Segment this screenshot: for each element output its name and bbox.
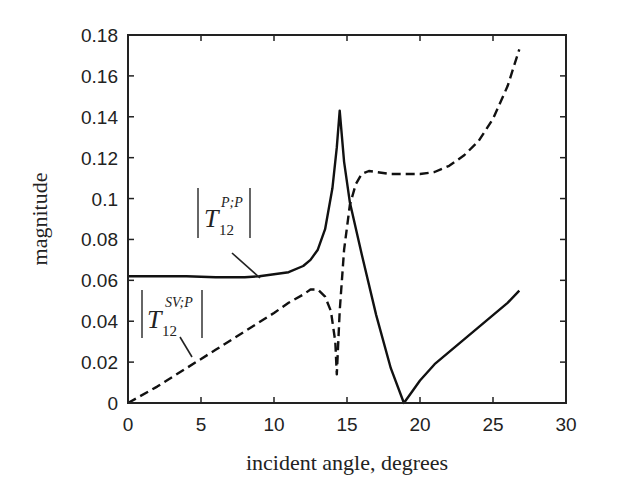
x-tick-label: 10 — [263, 414, 284, 435]
x-tick-label: 15 — [336, 414, 357, 435]
y-tick-label: 0.1 — [92, 189, 118, 210]
y-tick-label: 0.08 — [81, 229, 118, 250]
svg-text:12: 12 — [219, 222, 234, 238]
chart-figure: 00.020.040.060.080.10.120.140.160.18 051… — [0, 0, 620, 501]
x-tick-label: 0 — [123, 414, 134, 435]
y-tick-labels: 00.020.040.060.080.10.120.140.160.18 — [81, 25, 118, 414]
y-tick-label: 0.06 — [81, 270, 118, 291]
annotation-tpp: T P;P 12 — [198, 188, 260, 278]
annotation-tsvp: T SV;P 12 — [142, 290, 202, 357]
svg-text:P;P: P;P — [220, 195, 243, 210]
y-tick-label: 0.18 — [81, 25, 118, 46]
series-tpp-line — [128, 111, 519, 403]
svg-text:SV;P: SV;P — [165, 295, 193, 310]
chart-canvas: 00.020.040.060.080.10.120.140.160.18 051… — [0, 0, 620, 501]
x-axis-label: incident angle, degrees — [246, 450, 448, 475]
leader-line — [180, 337, 192, 357]
x-tick-label: 30 — [555, 414, 576, 435]
y-axis-label: magnitude — [27, 173, 52, 266]
svg-text:T: T — [147, 305, 163, 334]
series-tsvp-line — [128, 49, 519, 403]
x-tick-label: 5 — [196, 414, 207, 435]
y-tick-label: 0.16 — [81, 66, 118, 87]
y-tick-label: 0.02 — [81, 352, 118, 373]
y-tick-label: 0 — [107, 393, 118, 414]
svg-text:12: 12 — [162, 323, 177, 339]
x-tick-label: 20 — [409, 414, 430, 435]
svg-text:T: T — [204, 204, 220, 233]
y-tick-label: 0.14 — [81, 107, 118, 128]
data-series — [128, 49, 519, 403]
y-tick-label: 0.12 — [81, 148, 118, 169]
y-tick-label: 0.04 — [81, 311, 118, 332]
x-tick-label: 25 — [482, 414, 503, 435]
x-tick-labels: 051015202530 — [123, 414, 577, 435]
leader-line — [232, 253, 260, 278]
